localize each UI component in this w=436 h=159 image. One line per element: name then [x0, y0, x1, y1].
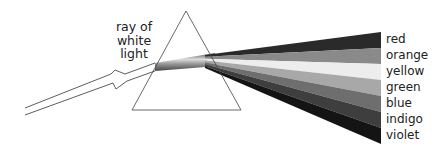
- label-blue: blue: [386, 95, 412, 111]
- prism-diagram: ray of white light red orange yellow gre…: [0, 0, 436, 159]
- white-light-ray-arrow: [25, 63, 155, 115]
- label-yellow: yellow: [386, 63, 424, 79]
- ray-label-line: light: [110, 47, 158, 61]
- label-red: red: [386, 31, 406, 47]
- label-orange: orange: [386, 47, 428, 63]
- spectrum-bands: [205, 32, 381, 144]
- ray-of-white-light-label: ray of white light: [110, 20, 158, 61]
- label-violet: violet: [386, 127, 419, 143]
- ray-label-line: white: [110, 34, 158, 48]
- ray-label-line: ray of: [110, 20, 158, 34]
- label-indigo: indigo: [386, 111, 423, 127]
- label-green: green: [386, 79, 421, 95]
- prism-dispersion-graphic: [0, 0, 436, 159]
